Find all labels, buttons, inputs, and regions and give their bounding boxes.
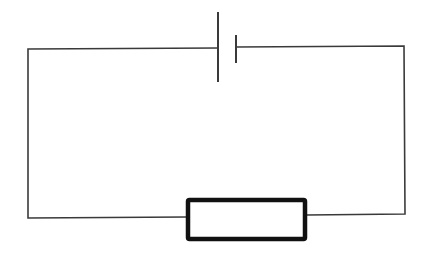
wire-top-left	[28, 48, 218, 218]
circuit-diagram	[0, 0, 428, 254]
wires	[28, 46, 405, 218]
resistor	[188, 200, 305, 239]
wire-top-right	[236, 46, 405, 215]
battery-cell	[218, 12, 236, 82]
